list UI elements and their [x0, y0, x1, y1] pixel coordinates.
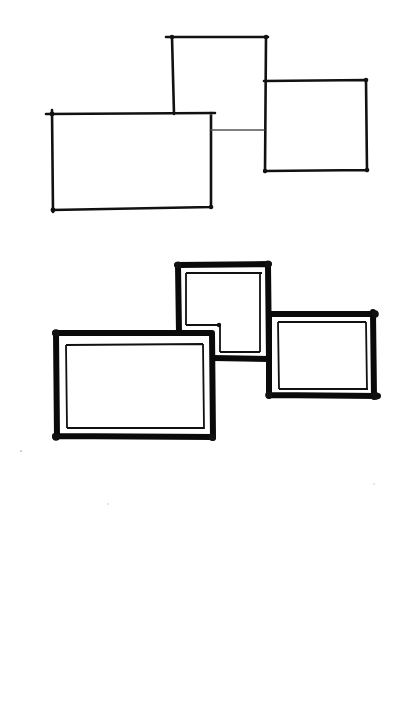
sketch-canvas [0, 0, 420, 707]
top-sketch [46, 35, 369, 213]
bottom-left-rect-outer [55, 333, 213, 438]
top-left-rect [46, 110, 215, 212]
bottom-left-rect-inner [66, 344, 204, 429]
top-upper-rect [166, 37, 268, 172]
bottom-right-rect-outer [269, 312, 378, 397]
top-right-rect [264, 80, 368, 171]
bottom-sketch [52, 261, 380, 441]
bottom-upper-rect-inner [186, 273, 262, 352]
bottom-upper-rect-outer [177, 264, 269, 360]
bottom-right-rect-inner [278, 322, 368, 390]
